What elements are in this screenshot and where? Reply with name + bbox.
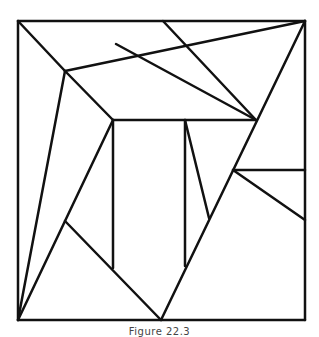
segment-A-to-bottomleft [18, 71, 65, 320]
segment-top-to-D [163, 21, 256, 120]
segment-mid-diag [185, 120, 209, 218]
segment-diag-topleft-to-A [18, 21, 65, 71]
segment-A-to-C [65, 71, 113, 120]
figure-caption: Figure 22.3 [0, 326, 319, 337]
geometric-figure [0, 0, 319, 337]
segment-B-to-D [116, 44, 256, 120]
segment-F-diag [233, 170, 305, 220]
